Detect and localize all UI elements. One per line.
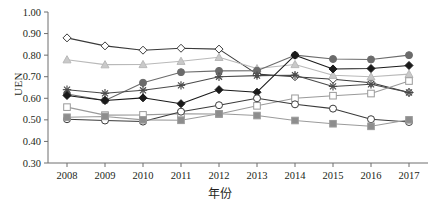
circle-marker bbox=[178, 69, 185, 76]
data-point-dark-filled-diamond bbox=[215, 86, 223, 94]
data-point-open-square bbox=[406, 78, 413, 85]
plot-area: 0.300.400.500.600.700.800.901.0020082009… bbox=[0, 0, 439, 208]
square-marker bbox=[64, 104, 71, 111]
data-point-light-triangle bbox=[405, 70, 413, 77]
y-tick-label: 0.70 bbox=[23, 71, 41, 82]
data-point-gray-filled-square bbox=[292, 117, 299, 124]
circle-marker bbox=[330, 105, 337, 112]
data-point-dark-filled-diamond bbox=[405, 61, 413, 69]
square-marker bbox=[368, 123, 375, 130]
data-point-asterisk bbox=[405, 88, 413, 96]
data-point-asterisk bbox=[329, 82, 337, 90]
square-marker bbox=[406, 117, 413, 124]
diamond-marker bbox=[63, 34, 71, 42]
data-point-gray-filled-square bbox=[64, 114, 71, 121]
circle-marker bbox=[368, 116, 375, 123]
data-point-asterisk bbox=[253, 71, 261, 79]
data-point-dark-filled-diamond bbox=[177, 100, 185, 108]
data-point-gray-filled-square bbox=[254, 112, 261, 119]
x-tick-label: 2017 bbox=[399, 170, 420, 181]
series-open-square-line bbox=[67, 81, 409, 115]
x-tick-label: 2010 bbox=[133, 170, 154, 181]
diamond-marker bbox=[177, 44, 185, 52]
line-chart: UEN 年份 0.300.400.500.600.700.800.901.002… bbox=[0, 0, 439, 208]
data-point-dark-filled-diamond bbox=[367, 65, 375, 73]
x-tick-label: 2013 bbox=[247, 170, 268, 181]
diamond-marker bbox=[215, 45, 223, 53]
circle-marker bbox=[254, 95, 261, 102]
data-point-gray-filled-circle bbox=[140, 79, 147, 86]
data-point-gray-filled-square bbox=[102, 113, 109, 120]
diamond-marker bbox=[367, 65, 375, 73]
data-point-light-triangle bbox=[63, 56, 71, 63]
diamond-marker bbox=[139, 94, 147, 102]
square-marker bbox=[102, 113, 109, 120]
x-tick-label: 2011 bbox=[171, 170, 192, 181]
circle-marker bbox=[216, 102, 223, 109]
square-marker bbox=[330, 92, 337, 99]
y-tick-label: 0.60 bbox=[23, 93, 41, 104]
y-tick-label: 0.30 bbox=[23, 158, 41, 169]
data-point-light-triangle bbox=[215, 53, 223, 60]
x-tick-label: 2009 bbox=[95, 170, 116, 181]
y-tick-label: 1.00 bbox=[23, 7, 41, 18]
data-point-gray-filled-circle bbox=[330, 56, 337, 63]
data-point-gray-filled-circle bbox=[368, 56, 375, 63]
triangle-marker bbox=[405, 70, 413, 77]
circle-marker bbox=[368, 56, 375, 63]
triangle-marker bbox=[215, 53, 223, 60]
square-marker bbox=[330, 120, 337, 127]
data-point-open-diamond bbox=[101, 42, 109, 50]
data-point-open-diamond bbox=[63, 34, 71, 42]
data-point-asterisk bbox=[367, 80, 375, 88]
data-point-open-diamond bbox=[215, 45, 223, 53]
data-point-open-diamond bbox=[139, 46, 147, 54]
y-tick-label: 0.50 bbox=[23, 114, 41, 125]
circle-marker bbox=[292, 101, 299, 108]
x-tick-label: 2012 bbox=[209, 170, 230, 181]
data-point-asterisk bbox=[215, 73, 223, 81]
data-point-asterisk bbox=[177, 81, 185, 89]
data-point-dark-filled-diamond bbox=[329, 65, 337, 73]
data-point-open-diamond bbox=[177, 44, 185, 52]
square-marker bbox=[254, 112, 261, 119]
data-point-gray-filled-square bbox=[216, 111, 223, 118]
data-point-open-circle bbox=[254, 95, 261, 102]
data-point-gray-filled-square bbox=[178, 117, 185, 124]
diamond-marker bbox=[215, 86, 223, 94]
diamond-marker bbox=[101, 42, 109, 50]
x-tick-label: 2014 bbox=[285, 170, 307, 181]
x-tick-label: 2016 bbox=[361, 170, 382, 181]
x-tick-label: 2015 bbox=[323, 170, 344, 181]
data-point-gray-filled-square bbox=[330, 120, 337, 127]
data-point-gray-filled-square bbox=[140, 117, 147, 124]
circle-marker bbox=[406, 52, 413, 59]
diamond-marker bbox=[329, 65, 337, 73]
data-point-gray-filled-square bbox=[406, 117, 413, 124]
y-tick-label: 0.40 bbox=[23, 136, 41, 147]
square-marker bbox=[368, 90, 375, 97]
diamond-marker bbox=[139, 46, 147, 54]
circle-marker bbox=[330, 56, 337, 63]
x-tick-label: 2008 bbox=[57, 170, 78, 181]
diamond-marker bbox=[177, 100, 185, 108]
data-point-gray-filled-circle bbox=[178, 69, 185, 76]
circle-marker bbox=[178, 108, 185, 115]
data-point-open-circle bbox=[178, 108, 185, 115]
data-point-open-circle bbox=[330, 105, 337, 112]
square-marker bbox=[406, 78, 413, 85]
y-tick-label: 0.90 bbox=[23, 28, 41, 39]
data-point-open-square bbox=[64, 104, 71, 111]
square-marker bbox=[178, 117, 185, 124]
data-point-dark-filled-diamond bbox=[139, 94, 147, 102]
data-point-gray-filled-square bbox=[368, 123, 375, 130]
data-point-open-circle bbox=[368, 116, 375, 123]
y-tick-label: 0.80 bbox=[23, 50, 41, 61]
triangle-marker bbox=[63, 56, 71, 63]
square-marker bbox=[140, 117, 147, 124]
square-marker bbox=[292, 117, 299, 124]
square-marker bbox=[64, 114, 71, 121]
data-point-gray-filled-circle bbox=[406, 52, 413, 59]
data-point-open-circle bbox=[292, 101, 299, 108]
data-point-open-square bbox=[368, 90, 375, 97]
